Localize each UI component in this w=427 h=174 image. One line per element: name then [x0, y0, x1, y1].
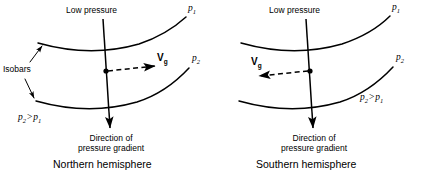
- geostrophic-wind-label: Vg: [251, 56, 262, 69]
- geostrophic-wind-figure: Low pressure p1 p2 Isobars p2>p1 Vg Dire…: [0, 0, 427, 174]
- isobars-label: Isobars: [3, 65, 31, 75]
- isobar-upper-label: p1: [188, 3, 196, 15]
- wind-vector-symbol: V: [157, 52, 164, 63]
- pressure-inequality-label: p2>p1: [18, 112, 41, 124]
- panel-southern-hemisphere: Low pressure p1 p2 p2>p1 Vg Direction of…: [213, 0, 427, 174]
- isobar-upper-curve: [241, 16, 390, 51]
- air-parcel-dot: [307, 68, 312, 73]
- isobars-leader-upper: [30, 46, 42, 62]
- pressure-gradient-label: Direction of pressure gradient: [75, 134, 147, 154]
- panel-caption-northern: Northern hemisphere: [53, 158, 152, 170]
- wind-vector-subscript: g: [164, 58, 168, 65]
- isobar-lower-subscript: 2: [197, 58, 200, 65]
- wind-vector-symbol: V: [251, 56, 258, 67]
- pressure-inequality-label: p2>p1: [360, 92, 383, 104]
- low-pressure-label: Low pressure: [269, 6, 320, 16]
- panel-northern-hemisphere: Low pressure p1 p2 Isobars p2>p1 Vg Dire…: [0, 0, 214, 174]
- isobar-upper-curve: [38, 17, 186, 51]
- isobar-upper-label: p1: [392, 2, 400, 14]
- geostrophic-wind-arrow: [108, 66, 155, 71]
- isobar-upper-subscript: 1: [193, 8, 196, 15]
- pressure-gradient-line1: Direction of: [90, 133, 133, 143]
- inequality-right-subscript: 1: [380, 97, 383, 104]
- pressure-gradient-line2: pressure gradient: [281, 143, 347, 153]
- geostrophic-wind-label: Vg: [157, 52, 168, 65]
- panel-caption-southern: Southern hemisphere: [256, 158, 356, 170]
- wind-vector-subscript: g: [258, 62, 262, 69]
- isobar-lower-label: p2: [192, 53, 200, 65]
- pressure-gradient-label: Direction of pressure gradient: [278, 134, 350, 154]
- isobar-lower-subscript: 2: [401, 57, 404, 64]
- pressure-gradient-line2: pressure gradient: [78, 143, 144, 153]
- isobar-lower-curve: [36, 68, 189, 109]
- air-parcel-dot: [103, 68, 108, 73]
- inequality-right-subscript: 1: [38, 117, 41, 124]
- isobar-upper-subscript: 1: [397, 7, 400, 14]
- isobars-leader-lower: [25, 79, 34, 98]
- geostrophic-wind-arrow: [259, 71, 308, 76]
- low-pressure-label: Low pressure: [66, 6, 117, 16]
- pressure-gradient-line1: Direction of: [293, 133, 336, 143]
- isobar-lower-label: p2: [396, 52, 404, 64]
